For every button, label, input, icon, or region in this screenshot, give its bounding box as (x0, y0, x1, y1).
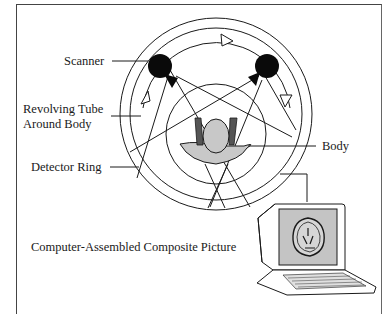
label-revolving-tube-1: Revolving Tube (23, 102, 103, 116)
detector-ring-outer (120, 18, 312, 210)
label-scanner: Scanner (64, 54, 104, 68)
detector-ring-inner (130, 28, 302, 200)
label-body: Body (322, 139, 349, 153)
computer-monitor (257, 204, 376, 295)
beam-line (137, 70, 170, 178)
rotation-arrow-icon (141, 91, 150, 104)
label-detector-ring: Detector Ring (31, 160, 101, 174)
scanner-right (248, 54, 279, 86)
scanner-left (148, 54, 178, 88)
label-revolving-tube-2: Around Body (23, 117, 91, 131)
computer-cable (280, 174, 307, 202)
beam-line (265, 76, 296, 130)
label-composite-picture: Computer-Assembled Composite Picture (31, 240, 236, 254)
beam-line (130, 76, 259, 152)
brain-scan-image (293, 218, 324, 256)
